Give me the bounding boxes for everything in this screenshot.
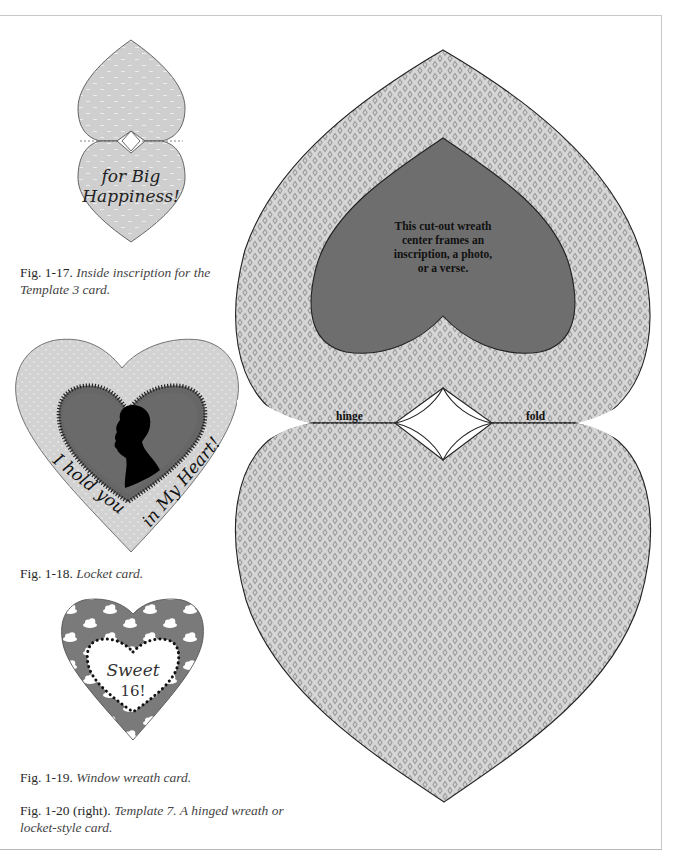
caption-fig20-label: Fig. 1-20 (right). xyxy=(20,803,111,818)
fig20-center-text-3: inscription, a photo, xyxy=(394,248,493,261)
fig20-center-text-1: This cut-out wreath xyxy=(395,220,493,232)
caption-fig20: Fig. 1-20 (right). Template 7. A hinged … xyxy=(20,802,320,836)
fig17-card: for Big Happiness! xyxy=(78,40,185,242)
caption-fig19-label: Fig. 1-19. xyxy=(20,770,73,785)
fig17-inscription-1: for Big xyxy=(100,166,161,186)
fig19-inscription-2: 16! xyxy=(120,682,145,700)
fig17-inscription-2: Happiness! xyxy=(81,186,179,206)
caption-fig17: Fig. 1-17. Inside inscription for the Te… xyxy=(20,264,235,298)
caption-fig17-label: Fig. 1-17. xyxy=(20,265,73,280)
fig20-template: This cut-out wreath center frames an ins… xyxy=(235,50,652,802)
caption-fig18: Fig. 1-18. Locket card. xyxy=(20,565,235,582)
fig19-inscription-1: Sweet xyxy=(106,660,159,680)
hinge-label: hinge xyxy=(336,410,363,423)
fig19-wreath-card: Sweet 16! xyxy=(62,599,204,740)
illustrations: for Big Happiness! I hold you in My Hear… xyxy=(0,0,674,854)
caption-fig19-desc: Window wreath card. xyxy=(76,770,191,785)
fig20-center-text-4: or a verse. xyxy=(418,262,469,274)
fig18-locket-card: I hold you in My Heart! xyxy=(16,339,239,552)
caption-fig18-desc: Locket card. xyxy=(76,566,143,581)
fold-label: fold xyxy=(526,410,546,422)
fig20-center-text-2: center frames an xyxy=(402,234,485,246)
caption-fig18-label: Fig. 1-18. xyxy=(20,566,73,581)
caption-fig19: Fig. 1-19. Window wreath card. xyxy=(20,769,320,786)
